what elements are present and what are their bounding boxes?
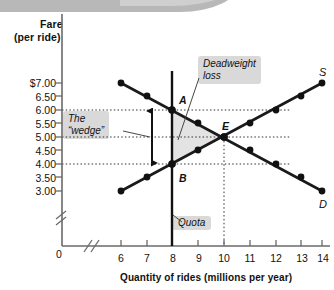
point-A [168,106,176,114]
wedge-leader-line [123,131,150,137]
y-axis-break-icon [56,211,66,225]
deadweight-loss-triangle [172,110,224,164]
y-axis-ticks [56,83,62,191]
quota-leader-line [173,215,182,222]
x-axis-ticks [121,240,322,246]
point-B [168,160,176,168]
point-E [220,133,228,141]
plot-area [0,0,334,290]
supply-demand-quota-figure: Fare (per ride) Quantity of rides (milli… [0,0,334,290]
